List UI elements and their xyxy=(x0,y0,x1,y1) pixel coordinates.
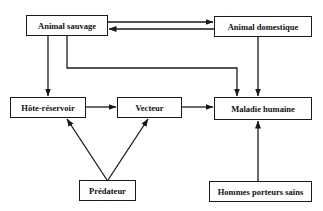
node-label: Hommes porteurs sains xyxy=(218,187,303,197)
node-label: Prédateur xyxy=(89,186,126,196)
node-animal-domestique: Animal domestique xyxy=(214,16,312,37)
node-hote-reservoir: Hôte-réservoir xyxy=(10,97,86,118)
node-label: Vecteur xyxy=(135,103,163,113)
node-maladie-humaine: Maladie humaine xyxy=(214,97,312,120)
edge-predateur-to-vecteur xyxy=(108,119,148,180)
node-hommes-porteurs-sains: Hommes porteurs sains xyxy=(209,181,312,202)
node-vecteur: Vecteur xyxy=(117,97,182,118)
node-label: Animal sauvage xyxy=(38,21,96,31)
edge-sauvage-to-maladie xyxy=(67,36,237,96)
node-label: Animal domestique xyxy=(228,22,299,32)
edge-predateur-to-hote-reservoir xyxy=(67,119,107,180)
node-animal-sauvage: Animal sauvage xyxy=(26,15,108,36)
node-predateur: Prédateur xyxy=(79,180,136,201)
node-label: Hôte-réservoir xyxy=(21,103,74,113)
node-label: Maladie humaine xyxy=(231,104,295,114)
